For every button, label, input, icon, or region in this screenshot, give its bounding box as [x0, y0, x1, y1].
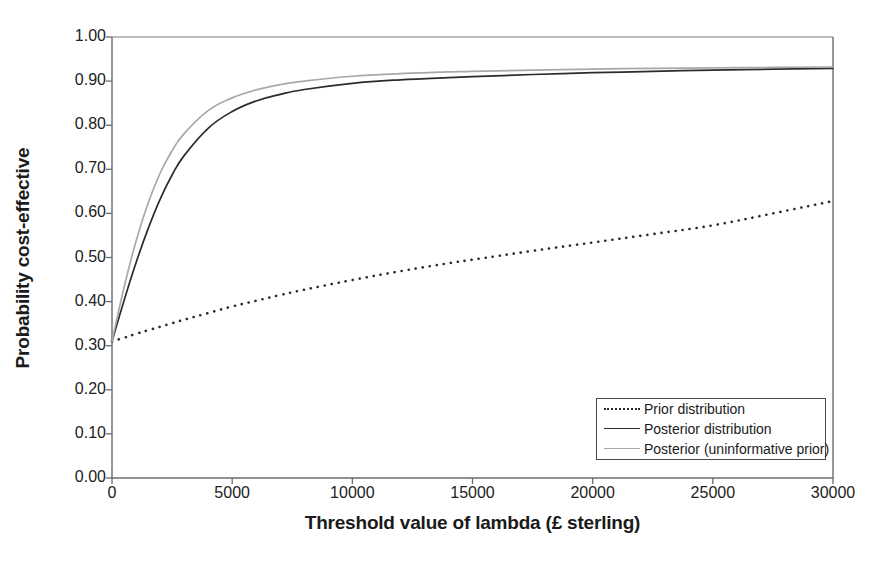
- y-axis-title-text: Probability cost-effective: [12, 147, 34, 368]
- legend-line-swatch: [604, 403, 640, 415]
- x-tick-label: 10000: [307, 484, 397, 502]
- x-tick-label: 5000: [187, 484, 277, 502]
- legend-item: Prior distribution: [597, 399, 825, 419]
- x-axis-title: Threshold value of lambda (£ sterling): [112, 512, 833, 534]
- x-tick-label: 25000: [668, 484, 758, 502]
- chart-figure: 0.000.100.200.300.400.500.600.700.800.90…: [0, 0, 883, 568]
- chart-legend: Prior distributionPosterior distribution…: [596, 398, 826, 460]
- x-tick-label: 30000: [788, 484, 878, 502]
- x-tick-label: 0: [67, 484, 157, 502]
- x-axis-tick-labels: 050001000015000200002500030000: [0, 0, 883, 568]
- x-tick-label: 15000: [428, 484, 518, 502]
- legend-item: Posterior distribution: [597, 419, 825, 439]
- x-tick-label: 20000: [548, 484, 638, 502]
- x-axis-title-text: Threshold value of lambda (£ sterling): [305, 512, 641, 533]
- legend-item: Posterior (uninformative prior): [597, 439, 825, 459]
- y-axis-title: Probability cost-effective: [6, 37, 40, 478]
- legend-item-label: Prior distribution: [644, 401, 745, 417]
- legend-item-label: Posterior (uninformative prior): [644, 441, 829, 457]
- legend-item-label: Posterior distribution: [644, 421, 772, 437]
- legend-line-swatch: [604, 443, 640, 455]
- legend-line-swatch: [604, 423, 640, 435]
